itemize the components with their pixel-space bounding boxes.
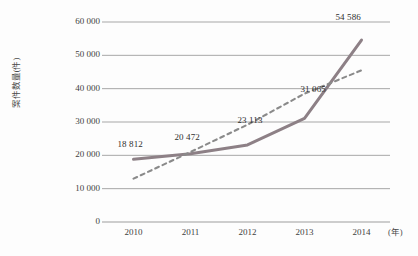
y-axis-title: 案件数量(件) <box>11 41 21 125</box>
y-axis-tick-labels: 010 00020 00030 00040 00050 00060 000 <box>42 0 100 256</box>
x-tick-label: 2013 <box>281 227 329 238</box>
y-tick-label: 50 000 <box>48 50 100 59</box>
data-point-label: 18 812 <box>118 139 143 149</box>
y-tick-label: 0 <box>48 217 100 226</box>
x-tick-label: 2011 <box>167 227 215 238</box>
y-tick-label: 20 000 <box>48 150 100 159</box>
data-point-label: 31 065 <box>301 84 326 94</box>
cutoff-caption <box>28 249 408 256</box>
y-tick-label: 10 000 <box>48 184 100 193</box>
x-tick-label: 2012 <box>224 227 272 238</box>
y-tick-label: 30 000 <box>48 117 100 126</box>
y-tick-label: 40 000 <box>48 84 100 93</box>
series-layer <box>134 40 362 179</box>
data-point-label: 20 472 <box>175 132 200 142</box>
y-tick-label: 60 000 <box>48 17 100 26</box>
x-axis-tick-labels: 20102011201220132014 <box>0 227 418 243</box>
series-line-main <box>134 40 362 159</box>
x-tick-label: 2014 <box>338 227 386 238</box>
x-tick-label: 2010 <box>110 227 158 238</box>
chart-container: 案件数量(件) 010 00020 00030 00040 00050 0006… <box>0 0 418 256</box>
data-point-label: 54 586 <box>336 12 361 22</box>
x-axis-unit-label: (年) <box>388 227 403 238</box>
data-point-label: 23 113 <box>238 115 263 125</box>
